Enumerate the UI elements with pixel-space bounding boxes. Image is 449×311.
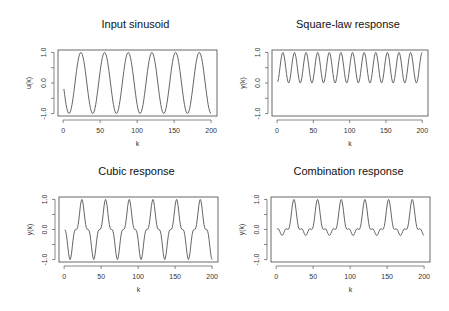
x-tick-label: 200 [206, 273, 218, 280]
y-tick-label: -1.0 [40, 107, 47, 119]
y-tick-label: 1.0 [254, 47, 261, 57]
x-tick-label: 200 [416, 127, 428, 134]
y-axis-label: u(k) [25, 77, 33, 89]
x-tick-label: 150 [168, 127, 180, 134]
combination-response-panel: Combination response050100150200k-1.00.0… [238, 165, 430, 293]
y-tick-label: 1.0 [41, 194, 48, 204]
y-tick-label: 1.0 [40, 47, 47, 57]
y-tick-label: -1.0 [253, 253, 260, 265]
x-axis-label: k [348, 140, 352, 147]
chart-title: Input sinusoid [102, 18, 170, 30]
x-tick-label: 0 [275, 127, 279, 134]
series-line [65, 199, 212, 259]
y-tick-label: -1.0 [41, 253, 48, 265]
x-tick-label: 150 [380, 127, 392, 134]
x-tick-label: 100 [132, 273, 144, 280]
chart-title: Combination response [293, 165, 403, 177]
x-tick-label: 200 [205, 127, 217, 134]
x-tick-label: 50 [96, 127, 104, 134]
y-tick-label: -1.0 [254, 107, 261, 119]
y-axis-label: y(k) [238, 224, 246, 236]
x-axis-label: k [136, 140, 140, 147]
y-axis-label: y(k) [239, 77, 247, 89]
x-tick-label: 100 [344, 127, 356, 134]
chart-title: Square-law response [296, 18, 400, 30]
x-tick-label: 50 [309, 127, 317, 134]
x-tick-label: 150 [381, 273, 393, 280]
cubic-response-panel: Cubic response050100150200k-1.00.01.0y(k… [26, 165, 218, 293]
chart-figure: Input sinusoid050100150200k-1.00.01.0u(k… [0, 0, 449, 311]
series-line [64, 52, 211, 113]
y-tick-label: 0.0 [253, 225, 260, 235]
x-tick-label: 50 [97, 273, 105, 280]
x-axis-label: k [349, 286, 353, 293]
square-law-response-panel: Square-law response050100150200k-1.00.01… [239, 18, 428, 147]
x-tick-label: 0 [61, 127, 65, 134]
x-tick-label: 50 [309, 273, 317, 280]
series-line [277, 199, 424, 235]
y-tick-label: 0.0 [41, 225, 48, 235]
x-tick-label: 150 [169, 273, 181, 280]
x-tick-label: 200 [418, 273, 430, 280]
x-tick-label: 100 [131, 127, 143, 134]
y-axis-label: y(k) [26, 224, 34, 236]
input-sinusoid-panel: Input sinusoid050100150200k-1.00.01.0u(k… [25, 18, 217, 147]
x-tick-label: 0 [274, 273, 278, 280]
x-tick-label: 100 [344, 273, 356, 280]
x-axis-label: k [137, 286, 141, 293]
series-line [278, 52, 422, 83]
y-tick-label: 1.0 [253, 194, 260, 204]
x-tick-label: 0 [62, 273, 66, 280]
y-tick-label: 0.0 [254, 78, 261, 88]
y-tick-label: 0.0 [40, 78, 47, 88]
chart-title: Cubic response [98, 165, 174, 177]
